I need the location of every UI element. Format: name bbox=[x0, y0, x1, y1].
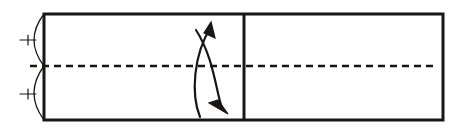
shaft-diagram-svg bbox=[0, 0, 463, 131]
technical-drawing-canvas: Cylindrical shaft end view with rotation… bbox=[0, 0, 463, 131]
